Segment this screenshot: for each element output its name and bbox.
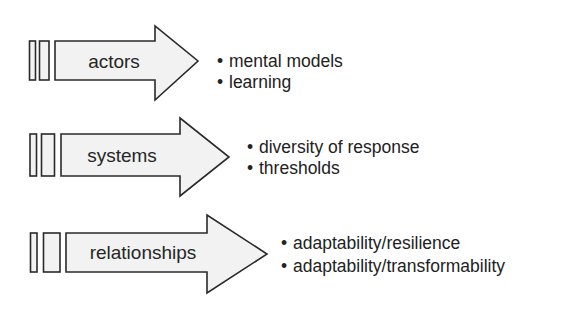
bullet-item: adaptability/transformability [281, 255, 505, 278]
bar-thin [30, 41, 36, 80]
bullet-list-relationships: adaptability/resilience adaptability/tra… [281, 232, 505, 278]
arrow-actors: actors [30, 26, 199, 100]
bar-thick [42, 134, 55, 176]
bar-thin [31, 233, 38, 272]
bar-thin [30, 134, 37, 176]
bullet-item: thresholds [247, 158, 420, 179]
bullet-item: adaptability/resilience [281, 232, 505, 255]
bullet-item: mental models [217, 51, 343, 72]
arrow-relationships: relationships [31, 215, 268, 293]
bullet-item: diversity of response [247, 137, 420, 158]
bullet-list-systems: diversity of response thresholds [247, 137, 420, 179]
bullet-item: learning [217, 72, 343, 93]
arrow-label: systems [87, 145, 157, 166]
arrow-label: actors [88, 51, 140, 72]
bar-thick [44, 233, 61, 272]
arrow-label: relationships [90, 242, 197, 263]
arrow-systems: systems [30, 118, 229, 196]
bullet-list-actors: mental models learning [217, 51, 343, 93]
bar-thick [40, 41, 50, 80]
